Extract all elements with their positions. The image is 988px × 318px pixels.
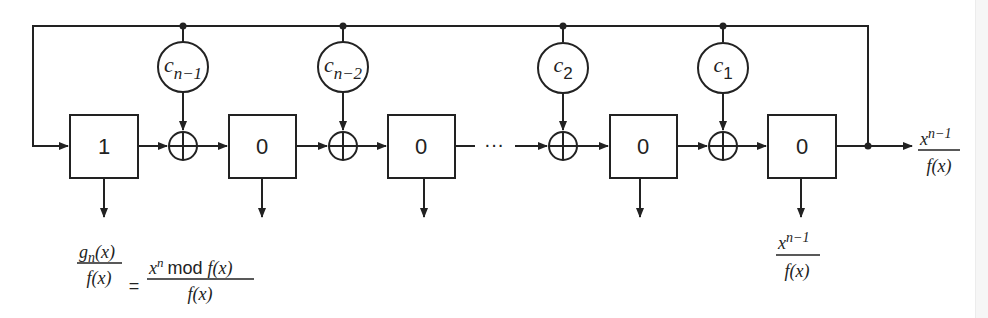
junction-dot <box>180 23 187 30</box>
ellipsis: ··· <box>484 133 504 155</box>
output-junction-dot <box>865 143 872 150</box>
register-value-5: 0 <box>796 134 808 159</box>
lfsr-diagram: ··· 1 0 0 0 0 cn−1 cn−2 c2 c1 xn−1 f(x) … <box>0 0 988 318</box>
register-value-3: 0 <box>415 134 427 159</box>
coefficient-label-cn-1: cn−1 <box>164 52 202 83</box>
coefficient-label-c2: c2 <box>553 52 572 83</box>
register-value-1: 1 <box>98 134 110 159</box>
gn-denominator: f(x) <box>87 268 112 289</box>
register-value-2: 0 <box>256 134 268 159</box>
junction-dot <box>340 23 347 30</box>
output-label-numerator: xn−1 <box>919 126 951 149</box>
equals-sign: = <box>129 276 140 296</box>
junction-dot <box>720 23 727 30</box>
feedback-bus <box>33 26 868 146</box>
rhs-denominator: f(x) <box>188 284 213 305</box>
junction-dot <box>560 23 567 30</box>
bottom-right-numerator: xn−1 <box>777 230 809 253</box>
output-label-denominator: f(x) <box>927 156 952 177</box>
register-value-4: 0 <box>637 134 649 159</box>
coefficient-label-c1: c1 <box>713 52 732 83</box>
rhs-numerator: xnmodf(x) <box>148 255 233 279</box>
gn-numerator: gn(x) <box>79 242 115 265</box>
coefficient-label-cn-2: cn−2 <box>324 52 363 83</box>
bottom-right-denominator: f(x) <box>785 261 810 282</box>
